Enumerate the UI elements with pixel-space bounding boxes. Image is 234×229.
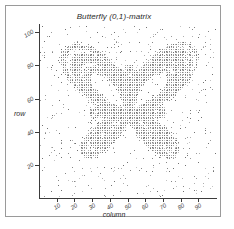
x-tick-label: 10 (52, 202, 61, 211)
butterfly-scatter-canvas (40, 24, 217, 198)
y-tick-label: 40 (14, 128, 34, 144)
scatter-plot-area (40, 24, 217, 198)
y-tick-label: 100 (14, 29, 34, 45)
x-tick-label: 70 (158, 202, 167, 211)
y-tick (35, 165, 39, 166)
y-tick (35, 32, 39, 33)
y-tick (35, 65, 39, 66)
y-tick-label: 20 (14, 161, 34, 177)
x-tick-label: 40 (105, 202, 114, 211)
y-axis-label: row (14, 110, 25, 117)
page-title: Butterfly (0,1)-matrix (6, 12, 222, 21)
y-tick (35, 99, 39, 100)
x-tick-label: 30 (88, 202, 97, 211)
y-tick-label: 60 (14, 95, 34, 111)
y-tick-label: 80 (14, 62, 34, 78)
x-tick-label: 90 (194, 202, 203, 211)
plot-axes: 20406080100 102030405060708090 (39, 24, 217, 199)
x-tick-label: 80 (176, 202, 185, 211)
y-tick (35, 132, 39, 133)
x-tick-label: 60 (141, 202, 150, 211)
x-tick-label: 50 (123, 202, 132, 211)
x-axis-label: column (6, 211, 222, 218)
figure-frame: Butterfly (0,1)-matrix 20406080100 10203… (5, 5, 221, 217)
x-tick-label: 20 (70, 202, 79, 211)
